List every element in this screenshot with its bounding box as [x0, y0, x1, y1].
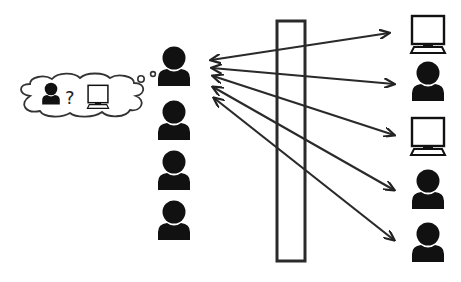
- monitor-icon: [411, 16, 445, 53]
- thought-dot-small: [151, 72, 156, 77]
- person-icon: [412, 170, 444, 210]
- left-column: [158, 47, 190, 241]
- person-icon: [412, 62, 444, 102]
- monitor-icon: [411, 118, 445, 155]
- thought-dot-large: [138, 76, 144, 82]
- person-icon: [158, 151, 190, 191]
- question-mark: ?: [65, 87, 75, 108]
- thought-bubble: ?: [21, 72, 155, 117]
- right-column: [411, 16, 445, 262]
- arrows: [211, 33, 394, 240]
- arrow-to-person-right-1: [212, 68, 394, 84]
- monitor-icon: [87, 85, 108, 108]
- person-icon: [412, 223, 444, 263]
- person-icon: [158, 101, 190, 141]
- arrow-to-monitor-1: [211, 33, 389, 60]
- person-icon: [158, 47, 190, 87]
- barrier-rectangle: [277, 21, 305, 261]
- cloud-shape: [21, 74, 143, 117]
- network-diagram: ?: [0, 0, 461, 282]
- person-icon: [158, 201, 190, 241]
